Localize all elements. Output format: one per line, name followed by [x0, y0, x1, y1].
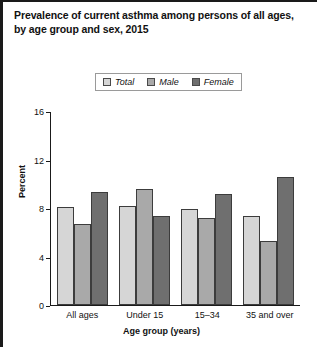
- legend-label-total: Total: [115, 77, 134, 87]
- legend-swatch-total: [103, 78, 111, 86]
- chart-legend: Total Male Female: [95, 73, 242, 91]
- bar-female: [153, 216, 170, 305]
- bar-group: [176, 112, 238, 305]
- bar-total: [181, 209, 198, 306]
- y-tick-label: 0: [39, 301, 44, 311]
- legend-label-female: Female: [204, 77, 234, 87]
- bar-female: [215, 194, 232, 305]
- y-tick-mark: [46, 112, 50, 113]
- y-tick-mark: [46, 258, 50, 259]
- x-axis-label: 15–34: [176, 310, 239, 320]
- bar-group: [113, 112, 175, 305]
- chart-figure: Prevalence of current asthma among perso…: [0, 0, 317, 347]
- legend-item-male: Male: [147, 77, 179, 87]
- x-axis-label: 35 and over: [239, 310, 302, 320]
- y-tick-label: 8: [39, 204, 44, 214]
- y-axis-title: Percent: [17, 165, 27, 198]
- legend-label-male: Male: [159, 77, 179, 87]
- bar-female: [91, 192, 108, 305]
- y-tick-mark: [46, 209, 50, 210]
- bar-male: [260, 241, 277, 305]
- title-line-1: Prevalence of current asthma among perso…: [14, 9, 304, 23]
- bar-total: [119, 206, 136, 305]
- plot-area: 0481216: [50, 112, 300, 306]
- bar-total: [243, 216, 260, 305]
- legend-item-total: Total: [103, 77, 134, 87]
- y-tick-mark: [46, 161, 50, 162]
- bar-total: [57, 207, 74, 305]
- title-line-2: by age group and sex, 2015: [14, 23, 304, 37]
- y-tick-label: 16: [34, 107, 44, 117]
- legend-swatch-female: [192, 78, 200, 86]
- x-axis-labels: All agesUnder 1515–3435 and over: [51, 310, 301, 320]
- bar-group: [51, 112, 113, 305]
- y-tick-mark: [46, 306, 50, 307]
- x-axis-title: Age group (years): [3, 326, 317, 336]
- x-axis-label: Under 15: [114, 310, 177, 320]
- page-title: Prevalence of current asthma among perso…: [14, 9, 304, 36]
- y-tick-label: 4: [39, 253, 44, 263]
- x-axis-line: [50, 305, 300, 306]
- bar-male: [136, 189, 153, 305]
- y-tick-label: 12: [34, 156, 44, 166]
- legend-item-female: Female: [192, 77, 234, 87]
- x-axis-label: All ages: [51, 310, 114, 320]
- bar-female: [277, 177, 294, 305]
- bar-male: [198, 218, 215, 305]
- bar-groups: [51, 112, 300, 305]
- legend-swatch-male: [147, 78, 155, 86]
- bar-male: [74, 224, 91, 305]
- bar-group: [238, 112, 300, 305]
